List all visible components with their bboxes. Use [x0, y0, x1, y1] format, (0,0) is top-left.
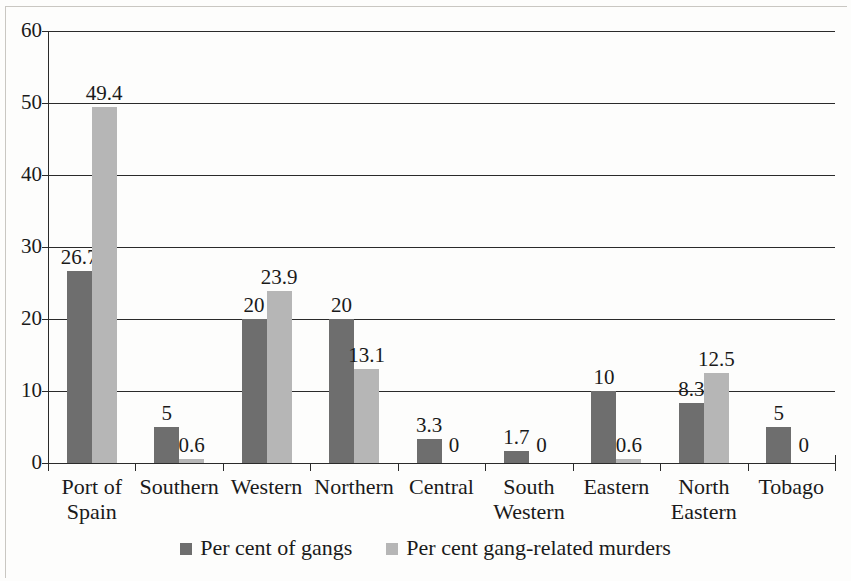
y-axis-tick-label: 60 — [0, 20, 42, 41]
x-axis-tick-mark — [660, 463, 661, 471]
bar — [616, 459, 641, 463]
x-axis-tick-mark — [748, 463, 749, 471]
x-axis-tick-mark — [135, 463, 136, 471]
y-axis-tick-label: 30 — [0, 236, 42, 257]
bar-value-label: 23.9 — [249, 267, 309, 288]
x-axis-tick-mark — [48, 463, 49, 471]
bar — [679, 403, 704, 463]
chart-legend: Per cent of gangsPer cent gang-related m… — [0, 536, 851, 560]
bar-value-label: 0 — [774, 435, 834, 456]
bar — [67, 271, 92, 463]
bar — [179, 459, 204, 463]
bar-value-label: 49.4 — [74, 83, 134, 104]
bar-value-label: 10 — [574, 367, 634, 388]
legend-item: Per cent gang-related murders — [386, 536, 671, 560]
x-axis-tick-mark — [573, 463, 574, 471]
x-axis-tick-mark — [398, 463, 399, 471]
legend-item: Per cent of gangs — [180, 536, 352, 560]
bar-value-label: 5 — [749, 403, 809, 424]
x-axis-tick-mark — [485, 463, 486, 471]
bar-value-label: 13.1 — [337, 345, 397, 366]
bar-value-label: 0.6 — [599, 435, 659, 456]
bar-value-label: 12.5 — [686, 349, 746, 370]
bar — [267, 291, 292, 463]
x-axis-tick-mark — [223, 463, 224, 471]
y-axis-tick-label: 50 — [0, 92, 42, 113]
y-axis-tick-label: 20 — [0, 308, 42, 329]
bar-value-label: 20 — [312, 295, 372, 316]
bar-chart-figure: 6050403020100 26.749.450.62023.92013.13.… — [0, 0, 851, 581]
y-axis-tick-label: 40 — [0, 164, 42, 185]
legend-label: Per cent of gangs — [200, 536, 352, 560]
bar-value-label: 0 — [424, 435, 484, 456]
bar — [354, 369, 379, 463]
legend-swatch-icon — [180, 543, 192, 555]
legend-label: Per cent gang-related murders — [406, 536, 671, 560]
bar-value-label: 0.6 — [162, 435, 222, 456]
y-axis-tick-label: 10 — [0, 380, 42, 401]
bar — [242, 319, 267, 463]
bar-value-label: 0 — [511, 435, 571, 456]
bar-value-label: 5 — [137, 403, 197, 424]
x-axis-line — [48, 463, 835, 464]
x-axis-category-label: Tobago — [731, 474, 851, 499]
x-axis-tick-mark — [310, 463, 311, 471]
legend-swatch-icon — [386, 543, 398, 555]
y-axis-tick-label: 0 — [0, 452, 42, 473]
plot-area: 26.749.450.62023.92013.13.301.70100.68.3… — [48, 31, 835, 463]
bar — [92, 107, 117, 463]
bar — [329, 319, 354, 463]
x-axis-tick-mark — [835, 463, 836, 471]
bar — [704, 373, 729, 463]
